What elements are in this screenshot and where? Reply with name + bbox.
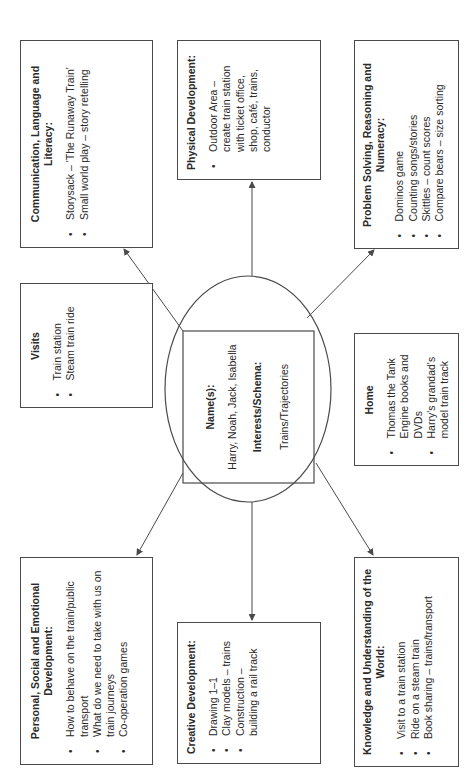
communication-list: Storysack – 'The Runaway Train' Small wo… [63,50,89,238]
list-item: Construction – building a rail track [234,632,260,736]
list-item: Steam train ride [63,293,76,380]
list-item: What do we need to take with us on train… [90,567,116,737]
list-item: Thomas the Tank Engine books and DVDs [384,343,424,438]
list-item: Compare bears – size sorting [432,50,445,221]
list-item: Small world play – story retelling [77,50,90,220]
visits-list: Train station Steam train ride [50,293,76,398]
center-content: Name(s): Harry, Noah, Jack, Isabella Int… [184,332,312,482]
list-item: Skittles – count scores [419,50,432,221]
physical-title: Physical Development: [185,50,198,170]
arrow-to-problem-solving [307,250,374,318]
box-visits: Visits Train station Steam train ride [20,283,153,408]
knowledge-list: Visit to a train station Ride on a steam… [394,567,434,757]
list-item: Clay models – trains [220,632,233,736]
list-item: Counting songs/stories [406,50,419,221]
list-item: Visit to a train station [394,567,407,739]
list-item: Co-operation games [116,567,129,737]
personal-list: How to behave on the train/public transp… [63,567,129,755]
creative-list: Drawing 1–1 Clay models – trains Constru… [207,632,260,754]
home-title: Home [362,343,375,456]
names-label: Name(s): [204,332,217,482]
problem-solving-list: Dominos game Counting songs/stories Skit… [392,50,445,239]
creative-title: Creative Development: [185,632,198,754]
box-creative: Creative Development: Drawing 1–1 Clay m… [177,622,321,764]
list-item: Harry's grandad's model train track [424,343,450,438]
home-list: Thomas the Tank Engine books and DVDs Ha… [384,343,450,456]
communication-title: Communication, Language and Literacy: [28,50,54,238]
physical-list: Outdoor Area – create train station with… [207,50,273,170]
problem-solving-title: Problem Solving, Reasoning and Numeracy: [360,50,386,239]
personal-title: Personal, Social and Emotional Developme… [28,567,54,755]
list-item: Book sharing – trains/transport [421,567,434,739]
names-value: Harry, Noah, Jack, Isabella [226,332,239,482]
list-item: Drawing 1–1 [207,632,220,736]
list-item: Dominos game [392,50,405,221]
arrow-to-personal [137,473,183,555]
list-item: Storysack – 'The Runaway Train' [63,50,76,220]
box-home: Home Thomas the Tank Engine books and DV… [354,333,459,466]
list-item: How to behave on the train/public transp… [63,567,89,737]
box-problem-solving: Problem Solving, Reasoning and Numeracy:… [354,40,459,249]
list-item: Outdoor Area – create train station with… [207,50,273,152]
interests-value: Trains/Trajectories [278,332,291,482]
box-communication: Communication, Language and Literacy: St… [20,40,153,248]
list-item: Ride on a steam train [408,567,421,739]
visits-title: Visits [28,293,41,398]
arrow-to-knowledge [316,463,373,555]
box-physical: Physical Development: Outdoor Area – cre… [177,40,321,180]
knowledge-title: Knowledge and Understanding of the World… [360,567,386,757]
box-knowledge: Knowledge and Understanding of the World… [354,557,459,767]
list-item: Train station [50,293,63,380]
interests-label: Interests/Schema: [251,332,264,482]
box-personal: Personal, Social and Emotional Developme… [20,557,153,765]
